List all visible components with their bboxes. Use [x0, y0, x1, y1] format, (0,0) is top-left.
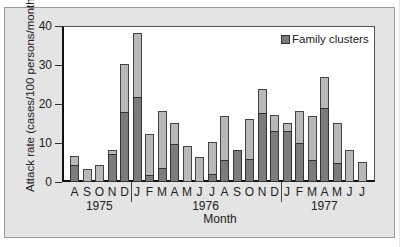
- month-label: M: [306, 185, 318, 199]
- bar-total-segment: [195, 157, 204, 182]
- bar: [333, 123, 342, 182]
- bar: [358, 162, 367, 182]
- bar-family-clusters-segment: [208, 174, 217, 182]
- bar: [83, 169, 92, 182]
- month-label: J: [194, 185, 206, 199]
- page-edge: [399, 0, 400, 247]
- legend-swatch-family-clusters: [281, 35, 290, 44]
- bar: [70, 156, 79, 182]
- year-separator: [131, 182, 132, 202]
- bar: [295, 111, 304, 182]
- month-label: N: [106, 185, 118, 199]
- month-label: F: [294, 185, 306, 199]
- bar-total-segment: [345, 150, 354, 182]
- bar-family-clusters-segment: [258, 113, 267, 182]
- bar: [220, 116, 229, 182]
- y-tick: [55, 182, 62, 183]
- year-separator: [281, 182, 282, 202]
- month-label: S: [81, 185, 93, 199]
- month-label: J: [356, 185, 368, 199]
- bar-family-clusters-segment: [220, 160, 229, 182]
- bar-family-clusters-segment: [70, 165, 79, 182]
- month-label: S: [231, 185, 243, 199]
- y-tick: [55, 65, 62, 66]
- year-label: 1976: [176, 199, 236, 213]
- y-tick-label: 10: [30, 137, 52, 149]
- month-label: M: [156, 185, 168, 199]
- y-tick-label: 0: [30, 176, 52, 188]
- bar: [308, 116, 317, 182]
- month-label: N: [256, 185, 268, 199]
- bar: [258, 89, 267, 182]
- bar-family-clusters-segment: [170, 144, 179, 182]
- month-label: D: [269, 185, 281, 199]
- bar-family-clusters-segment: [283, 131, 292, 182]
- bar: [95, 165, 104, 182]
- y-tick: [55, 104, 62, 105]
- bar: [320, 77, 329, 182]
- bar-total-segment: [83, 169, 92, 182]
- month-label: M: [331, 185, 343, 199]
- month-label: J: [344, 185, 356, 199]
- bar: [270, 115, 279, 182]
- month-label: A: [219, 185, 231, 199]
- month-label: A: [319, 185, 331, 199]
- bar: [133, 33, 142, 182]
- bar-family-clusters-segment: [295, 143, 304, 182]
- y-tick: [55, 26, 62, 27]
- bar-total-segment: [95, 165, 104, 182]
- bar: [195, 157, 204, 182]
- year-label: 1977: [294, 199, 354, 213]
- bar-total-segment: [183, 146, 192, 182]
- legend: Family clusters: [281, 33, 369, 45]
- bar-family-clusters-segment: [308, 160, 317, 182]
- year-label: 1975: [69, 199, 129, 213]
- bar-family-clusters-segment: [120, 112, 129, 182]
- x-axis-title: Month: [180, 212, 260, 226]
- bar-family-clusters-segment: [108, 154, 117, 182]
- bar: [120, 64, 129, 182]
- bar: [233, 150, 242, 182]
- bar-total-segment: [358, 162, 367, 182]
- bar-family-clusters-segment: [270, 131, 279, 182]
- month-label: J: [206, 185, 218, 199]
- y-tick-label: 40: [30, 20, 52, 32]
- month-label: J: [131, 185, 143, 199]
- bar: [283, 123, 292, 182]
- bar-family-clusters-segment: [333, 163, 342, 182]
- y-tick-label: 30: [30, 59, 52, 71]
- y-tick: [55, 143, 62, 144]
- bar: [245, 119, 254, 182]
- bar-family-clusters-segment: [145, 175, 154, 182]
- bar-family-clusters-segment: [133, 97, 142, 182]
- bar-family-clusters-segment: [245, 159, 254, 182]
- month-label: M: [181, 185, 193, 199]
- month-label: F: [144, 185, 156, 199]
- month-label: O: [94, 185, 106, 199]
- month-label: D: [119, 185, 131, 199]
- bar-family-clusters-segment: [320, 108, 329, 182]
- month-label: A: [69, 185, 81, 199]
- bar: [170, 123, 179, 182]
- bar: [108, 150, 117, 182]
- legend-label: Family clusters: [292, 33, 369, 45]
- y-tick-label: 20: [30, 98, 52, 110]
- bar: [158, 111, 167, 182]
- month-label: J: [281, 185, 293, 199]
- bar: [183, 146, 192, 182]
- bar-family-clusters-segment: [158, 168, 167, 182]
- bar: [145, 134, 154, 182]
- month-label: O: [244, 185, 256, 199]
- month-label: A: [169, 185, 181, 199]
- bar: [345, 150, 354, 182]
- bar-family-clusters-segment: [233, 150, 242, 182]
- bar: [208, 142, 217, 182]
